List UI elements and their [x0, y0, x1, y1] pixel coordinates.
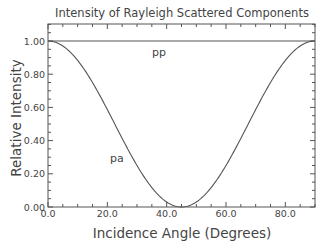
- x-tick-label: 60.0: [215, 208, 236, 219]
- x-tick-label: 80.0: [275, 208, 296, 219]
- y-axis-label: Relative Intensity: [8, 59, 24, 177]
- plot-frame: [48, 24, 315, 207]
- series-lines: [48, 41, 315, 207]
- y-tick-label: 0.20: [24, 168, 45, 179]
- y-tick-label: 0.40: [24, 135, 45, 146]
- y-tick-label: 1.00: [24, 36, 45, 47]
- series-pa: [48, 41, 315, 207]
- y-tick-label: 0.60: [24, 102, 45, 113]
- annotation-pp: pp: [152, 46, 166, 59]
- axis-ticks: [48, 24, 315, 207]
- y-tick-label: 0.80: [24, 69, 45, 80]
- x-tick-label: 20.0: [97, 208, 118, 219]
- chart-title: Intensity of Rayleigh Scattered Componen…: [55, 6, 309, 20]
- chart: Intensity of Rayleigh Scattered Componen…: [0, 0, 330, 245]
- y-tick-labels: 0.000.200.400.600.801.00: [24, 36, 45, 213]
- x-tick-label: 40.0: [156, 208, 177, 219]
- x-axis-label: Incidence Angle (Degrees): [93, 225, 272, 241]
- x-tick-labels: 0.020.040.060.080.0: [40, 208, 295, 219]
- y-tick-label: 0.00: [24, 202, 45, 213]
- annotation-pa: pa: [110, 152, 124, 165]
